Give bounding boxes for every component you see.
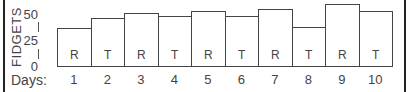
bar-day-10: T bbox=[359, 11, 394, 67]
y-tick-50: 50 bbox=[16, 7, 38, 22]
x-tick-6: 6 bbox=[225, 72, 259, 87]
y-axis-segment bbox=[38, 22, 39, 32]
bar-day-7: R bbox=[258, 9, 293, 67]
x-tick-4: 4 bbox=[158, 72, 192, 87]
bar-day-3: R bbox=[124, 13, 159, 67]
x-tick-8: 8 bbox=[292, 72, 326, 87]
x-axis-baseline bbox=[57, 66, 392, 67]
bar-day-4: T bbox=[158, 16, 193, 67]
x-axis-label: Days: bbox=[11, 72, 47, 88]
bar-label: R bbox=[125, 48, 158, 62]
bar-day-1: R bbox=[57, 28, 92, 67]
bar-label: T bbox=[92, 48, 125, 62]
x-tick-10: 10 bbox=[359, 72, 393, 87]
x-tick-2: 2 bbox=[91, 72, 125, 87]
left-border bbox=[3, 0, 5, 92]
bar-day-6: T bbox=[225, 16, 260, 67]
bar-day-8: T bbox=[292, 27, 327, 67]
bar-plot-area: RTRTRTRTRT bbox=[57, 0, 392, 67]
bar-label: R bbox=[326, 48, 359, 62]
bar-label: T bbox=[159, 48, 192, 62]
x-tick-3: 3 bbox=[124, 72, 158, 87]
bar-label: R bbox=[58, 48, 91, 62]
bar-label: R bbox=[192, 48, 225, 62]
x-tick-7: 7 bbox=[258, 72, 292, 87]
x-tick-1: 1 bbox=[57, 72, 91, 87]
y-axis-segment bbox=[38, 49, 39, 59]
bar-label: T bbox=[360, 48, 393, 62]
x-tick-5: 5 bbox=[191, 72, 225, 87]
bar-label: T bbox=[293, 48, 326, 62]
bar-day-5: R bbox=[191, 11, 226, 67]
right-border bbox=[404, 0, 406, 92]
bar-label: T bbox=[226, 48, 259, 62]
x-tick-9: 9 bbox=[325, 72, 359, 87]
bar-day-9: R bbox=[325, 4, 360, 67]
bar-day-2: T bbox=[91, 18, 126, 67]
bar-label: R bbox=[259, 48, 292, 62]
y-tick-25: 25 bbox=[16, 33, 38, 48]
